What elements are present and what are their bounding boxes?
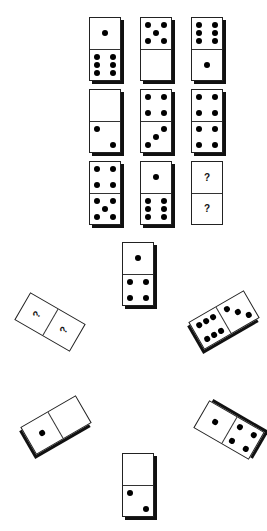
grid-domino	[140, 17, 172, 81]
grid-domino	[89, 89, 121, 153]
domino-half	[192, 90, 222, 121]
pip	[145, 38, 151, 44]
pip	[161, 206, 167, 212]
pip	[143, 506, 149, 512]
pip	[110, 62, 116, 68]
pip	[196, 30, 202, 36]
pip	[145, 198, 151, 204]
pip	[145, 142, 151, 148]
question-mark: ?	[192, 194, 222, 225]
pip	[222, 305, 230, 313]
pip	[204, 62, 210, 68]
pip	[127, 295, 133, 301]
pip	[143, 295, 149, 301]
pip	[145, 214, 151, 220]
domino-half	[141, 18, 171, 49]
pip	[94, 126, 100, 132]
pip	[102, 30, 108, 36]
grid-domino	[140, 161, 172, 225]
pip	[235, 423, 243, 431]
domino-half	[90, 90, 120, 121]
answer-option-bottom-right[interactable]	[193, 400, 264, 460]
pip	[196, 22, 202, 28]
pip	[210, 331, 218, 339]
pip	[250, 431, 258, 439]
pip	[94, 54, 100, 60]
missing-domino: ??	[191, 161, 223, 225]
pip	[161, 110, 167, 116]
pip	[161, 94, 167, 100]
pip	[212, 110, 218, 116]
pip	[102, 206, 108, 212]
pip	[110, 54, 116, 60]
answer-option-bottom-left[interactable]	[20, 395, 91, 455]
domino-half	[90, 18, 120, 49]
pip	[94, 62, 100, 68]
pip	[212, 38, 218, 44]
pip	[110, 198, 116, 204]
domino-half	[123, 454, 153, 485]
pip	[234, 308, 242, 316]
domino-half	[90, 121, 120, 153]
pip	[217, 327, 225, 335]
answer-option-bottom[interactable]	[122, 453, 154, 517]
question-mark: ?	[192, 162, 222, 193]
pip	[145, 206, 151, 212]
domino-half: ?	[192, 162, 222, 193]
answer-option-right[interactable]	[188, 290, 259, 350]
pip	[143, 279, 149, 285]
pip	[242, 445, 250, 453]
pip	[110, 214, 116, 220]
pip	[211, 418, 219, 426]
domino-half	[90, 162, 120, 193]
domino-half	[123, 274, 153, 306]
pip	[195, 321, 203, 329]
pip	[196, 126, 202, 132]
grid-domino	[191, 89, 223, 153]
domino-half	[141, 193, 171, 225]
grid-domino	[89, 161, 121, 225]
pip	[203, 335, 211, 343]
pip	[212, 94, 218, 100]
pip	[38, 429, 46, 437]
pip	[153, 134, 159, 140]
pip	[110, 166, 116, 172]
pip	[212, 22, 218, 28]
pip	[161, 126, 167, 132]
pip	[196, 142, 202, 148]
domino-half	[141, 49, 171, 81]
pip	[227, 437, 235, 445]
pip	[94, 182, 100, 188]
pip	[135, 255, 141, 261]
grid-domino	[140, 89, 172, 153]
domino-half	[90, 193, 120, 225]
pip	[196, 38, 202, 44]
pip	[161, 38, 167, 44]
domino-half	[141, 90, 171, 121]
pip	[94, 198, 100, 204]
pip	[212, 30, 218, 36]
domino-half: ?	[192, 193, 222, 225]
pip	[145, 110, 151, 116]
pip	[145, 94, 151, 100]
pip	[94, 166, 100, 172]
grid-domino	[191, 17, 223, 81]
pip	[212, 126, 218, 132]
answer-option-top[interactable]	[122, 242, 154, 306]
pip	[202, 317, 210, 325]
domino-half	[141, 162, 171, 193]
pip	[161, 214, 167, 220]
pip	[196, 110, 202, 116]
domino-half	[90, 49, 120, 81]
pip	[94, 70, 100, 76]
pip	[245, 311, 253, 319]
domino-half	[123, 485, 153, 517]
pip	[127, 279, 133, 285]
grid-domino	[89, 17, 121, 81]
pip	[153, 30, 159, 36]
domino-half	[192, 49, 222, 81]
answer-option-left[interactable]: ??	[14, 292, 85, 352]
domino-half	[123, 243, 153, 274]
pip	[161, 198, 167, 204]
pip	[161, 22, 167, 28]
